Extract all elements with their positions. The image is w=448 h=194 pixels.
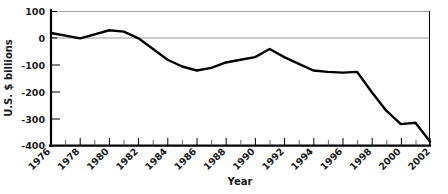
x-tick-label-1980: 1980: [84, 145, 111, 172]
x-tick-label-2000: 2000: [376, 145, 403, 172]
x-axis-label: Year: [227, 176, 253, 187]
y-tick-label-0: 0: [38, 33, 45, 44]
line-chart: 100 0 -100 -200 -300 -400: [0, 0, 448, 194]
x-tick-labels: 1976 1978 1980 1982 1984 1986 1988 1990 …: [26, 145, 432, 172]
x-tick-label-1988: 1988: [201, 145, 228, 172]
y-tick-label-neg200: -200: [21, 87, 45, 98]
x-tick-label-1998: 1998: [347, 145, 374, 172]
y-tick-label-neg300: -300: [21, 114, 45, 125]
x-tick-label-1984: 1984: [143, 145, 170, 172]
x-tick-label-1992: 1992: [260, 146, 286, 172]
x-tick-label-1996: 1996: [318, 145, 345, 172]
chart-figure: 100 0 -100 -200 -300 -400: [0, 0, 448, 194]
y-tick-label-100: 100: [25, 6, 45, 17]
y-tick-label-neg100: -100: [21, 60, 45, 71]
x-tick-label-1978: 1978: [55, 145, 82, 172]
y-axis-label: U.S. $ billions: [3, 39, 14, 117]
x-tick-label-1986: 1986: [172, 145, 199, 172]
x-tick-label-1994: 1994: [289, 145, 316, 172]
x-tick-label-1982: 1982: [114, 146, 140, 172]
y-tick-labels: 100 0 -100 -200 -300 -400: [21, 6, 45, 151]
x-tick-label-1990: 1990: [230, 145, 257, 172]
x-tick-label-2002: 2002: [406, 146, 432, 172]
